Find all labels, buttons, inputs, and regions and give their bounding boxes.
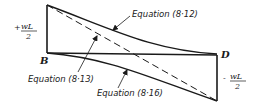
right-value-denominator: 2 [234,82,240,91]
label-equation-8-12: Equation (8·12) [132,9,198,19]
label-equation-8-16: Equation (8·16) [97,88,163,98]
left-value-label: + wL 2 [14,22,37,41]
leader-arrow-8-12 [113,16,130,30]
left-value-numerator: wL [21,22,33,31]
label-equation-8-13: Equation (8·13) [28,74,94,84]
shear-diagram: Equation (8·12) Equation (8·13) Equation… [0,0,259,110]
left-value-denominator: 2 [25,32,31,41]
point-label-b: B [39,55,48,66]
left-value-sign: + [14,23,21,32]
right-value-numerator: wL [230,72,242,81]
right-value-sign: - [223,74,226,83]
baseline-b-d [47,53,217,55]
leader-arrow-8-16 [118,70,127,88]
right-value-label: - wL 2 [223,72,246,91]
point-label-d: D [220,49,230,60]
